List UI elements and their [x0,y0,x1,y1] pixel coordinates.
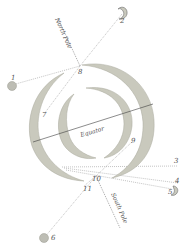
ray-2-to-8 [80,14,122,66]
label-3: 3 [174,157,179,165]
label-5: 5 [168,188,173,196]
label-2: 2 [119,17,125,25]
ray-to-3 [62,166,178,167]
body-6-circle-icon [40,234,49,243]
inner-ring-left-crescent [58,94,96,159]
orbit-diagram: 1 2 3 4 5 6 7 8 9 10 11 North Pole South… [0,0,182,249]
label-7: 7 [42,111,47,119]
ray-to-5 [66,170,172,189]
label-1: 1 [11,74,15,82]
label-9: 9 [131,137,136,145]
south-pole-label: South Pole [110,192,130,225]
label-8: 8 [78,68,83,76]
outer-ring-right-crescent [82,64,154,178]
ray-1-to-8 [12,66,80,85]
diagram-canvas: 1 2 3 4 5 6 7 8 9 10 11 North Pole South… [0,0,182,249]
label-6: 6 [51,234,56,242]
label-4: 4 [174,177,179,185]
label-10: 10 [92,175,101,183]
ray-8-to-7 [44,66,80,114]
outer-ring-left-crescent [29,73,84,181]
north-pole-label: North Pole [54,16,74,50]
label-11: 11 [83,185,92,193]
body-1-circle-icon [8,82,17,91]
